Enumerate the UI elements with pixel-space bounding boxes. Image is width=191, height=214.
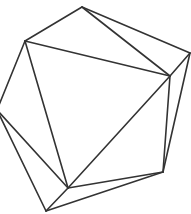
edge-upper_left-bottom_inner bbox=[25, 41, 68, 188]
polyhedron-wireframe bbox=[0, 0, 191, 214]
edge-bottom_inner-bottom_right bbox=[68, 172, 163, 188]
edge-upper_left-left bbox=[0, 41, 25, 110]
edge-left-bottom bbox=[0, 110, 46, 211]
edge-left-bottom_inner bbox=[0, 110, 68, 188]
edge-right_inner-bottom_inner bbox=[68, 76, 170, 188]
edge-top-right_outer bbox=[82, 7, 190, 53]
edge-top-upper_left bbox=[25, 7, 82, 41]
wireframe-edges bbox=[0, 7, 190, 211]
